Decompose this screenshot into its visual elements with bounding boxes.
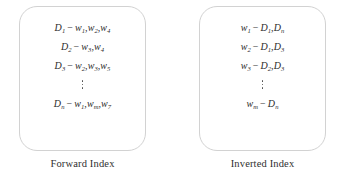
vertical-ellipsis: [262, 75, 263, 94]
entry-value: D1: [260, 42, 271, 52]
entry-value: w2: [75, 61, 85, 71]
entry-value: w3: [88, 61, 98, 71]
entry-value: w1: [75, 23, 85, 33]
index-entry: D3−w2, w3, w5: [55, 56, 111, 75]
entry-key: w1: [241, 23, 251, 33]
entry-key: D1: [55, 23, 66, 33]
entry-value: D3: [274, 61, 285, 71]
entry-value: w7: [101, 99, 111, 109]
entry-value: w4: [100, 23, 110, 33]
vertical-ellipsis: [82, 75, 83, 94]
index-entry: w3−D2, D3: [241, 56, 285, 75]
entry-key: w2: [241, 42, 251, 52]
index-entry: w2−D1, D3: [241, 37, 285, 56]
entry-value: Dn: [274, 23, 285, 33]
entry-value: Dn: [268, 99, 279, 109]
entry-value: D3: [274, 42, 285, 52]
entry-key: w3: [241, 61, 251, 71]
inverted-index-entry-list: w1−D1, Dnw2−D1, D3w3−D2, D3wm−Dn: [200, 18, 325, 113]
entry-value: w5: [100, 61, 110, 71]
index-entry: D1−w1, w2, w4: [55, 18, 111, 37]
forward-index-entry-list: D1−w1, w2, w4D2−w3, w4D3−w2, w3, w5Dn−w1…: [20, 18, 145, 113]
entry-key: D2: [61, 42, 72, 52]
entry-value: w4: [94, 42, 104, 52]
entry-operator: −: [72, 42, 82, 52]
entry-value: D1: [260, 23, 271, 33]
entry-value: w2: [88, 23, 98, 33]
entry-operator: −: [65, 23, 75, 33]
entry-value: w1: [74, 99, 84, 109]
inverted-index-caption: Inverted Index: [199, 158, 326, 169]
entry-operator: −: [258, 99, 268, 109]
forward-index-box: D1−w1, w2, w4D2−w3, w4D3−w2, w3, w5Dn−w1…: [19, 6, 146, 151]
entry-value: D2: [260, 61, 271, 71]
forward-index-caption: Forward Index: [19, 158, 146, 169]
entry-operator: −: [64, 99, 74, 109]
index-entry: Dn−w1, wm, w7: [54, 94, 111, 113]
entry-key: Dn: [54, 99, 65, 109]
entry-operator: −: [65, 61, 75, 71]
entry-value: w3: [81, 42, 91, 52]
inverted-index-box: w1−D1, Dnw2−D1, D3w3−D2, D3wm−Dn: [199, 6, 326, 151]
index-entry: wm−Dn: [247, 94, 279, 113]
index-entry: D2−w3, w4: [61, 37, 104, 56]
entry-key: D3: [55, 61, 66, 71]
index-comparison-diagram: D1−w1, w2, w4D2−w3, w4D3−w2, w3, w5Dn−w1…: [0, 0, 345, 181]
entry-value: wm: [87, 99, 99, 109]
index-entry: w1−D1, Dn: [241, 18, 285, 37]
entry-key: wm: [247, 99, 259, 109]
